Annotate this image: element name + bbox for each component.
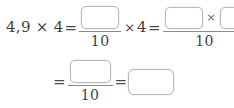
fraction-3: 10 (68, 60, 113, 103)
answer-blank-1[interactable] (81, 6, 119, 29)
math-worksheet-expression: 4,9 × 4 = 10 × 4 = × 10 = (0, 0, 234, 108)
equals-sign-1: = (64, 19, 79, 37)
fraction-1-denominator: 10 (79, 32, 121, 49)
fraction-2-numerator: × (163, 7, 234, 31)
fraction-1: 10 (79, 6, 121, 49)
multiplication-sign-1: × (122, 20, 137, 35)
final-answer-blank[interactable] (128, 69, 174, 95)
fraction-1-numerator (79, 6, 121, 31)
fraction-2: × 10 (163, 7, 234, 49)
multiplier-value: 4 (137, 20, 147, 35)
answer-blank-3[interactable] (220, 7, 234, 29)
multiplication-sign-2: × (203, 11, 220, 24)
left-hand-side-expression: 4,9 × 4 (6, 20, 64, 35)
equals-sign-4: = (114, 73, 129, 91)
equals-sign-3: = (52, 73, 67, 91)
fraction-2-denominator: 10 (163, 32, 234, 49)
equation-line-2: = 10 = (52, 55, 174, 108)
answer-blank-4[interactable] (70, 60, 111, 83)
fraction-3-denominator: 10 (68, 86, 113, 103)
equation-line-1: 4,9 × 4 = 10 × 4 = × 10 (6, 0, 234, 55)
equals-sign-2: = (147, 19, 162, 37)
fraction-3-numerator (68, 60, 113, 85)
answer-blank-2[interactable] (165, 7, 203, 29)
